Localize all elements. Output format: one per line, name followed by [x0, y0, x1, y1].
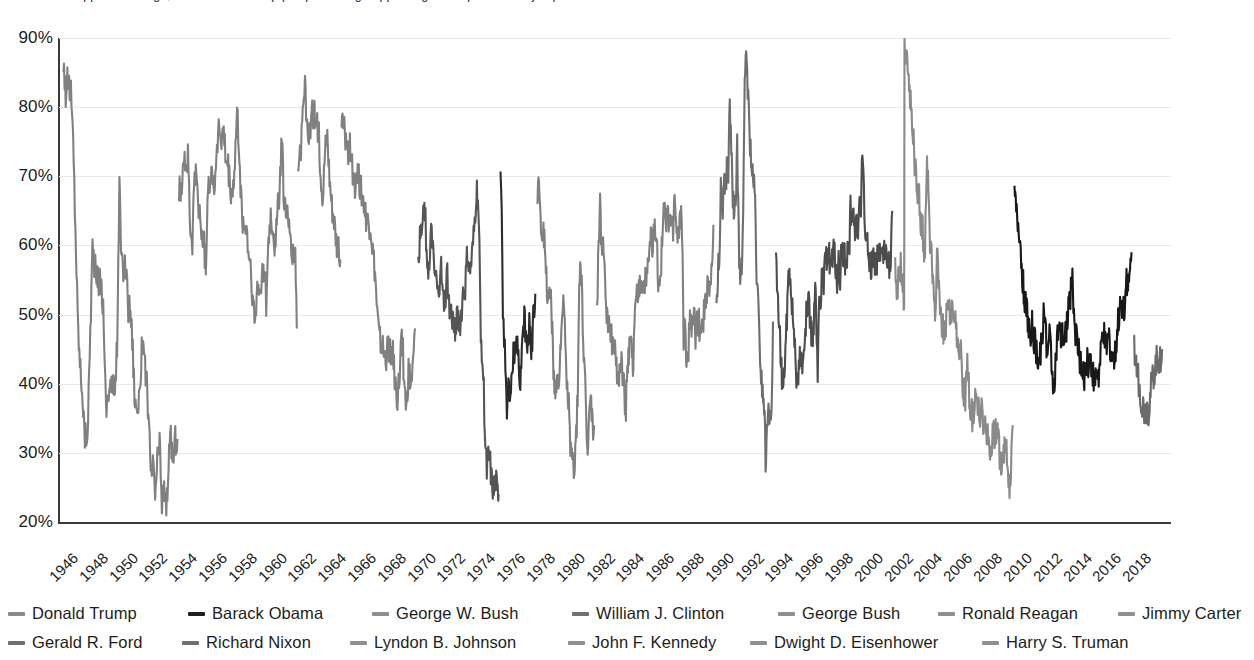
series-line [298, 76, 340, 267]
x-tick-label: 1948 [75, 549, 111, 585]
legend-swatch-icon [188, 612, 205, 616]
x-tick-label: 1978 [523, 549, 559, 585]
x-tick-label: 1950 [105, 549, 141, 585]
x-tick-label: 1992 [731, 549, 767, 585]
legend-item[interactable]: Donald Trump [8, 600, 137, 627]
legend-swatch-icon [568, 641, 585, 645]
legend-swatch-icon [938, 612, 955, 616]
series-line [597, 194, 713, 421]
y-axis-labels: 90%80%70%60%50%40%30%20% [0, 14, 56, 526]
legend-item[interactable]: John F. Kennedy [568, 629, 716, 656]
clipped-title-strip: Presidential approval ratings, 1945-2019… [0, 0, 1254, 12]
x-tick-label: 2008 [970, 549, 1006, 585]
series-line [179, 108, 297, 329]
legend-swatch-icon [572, 612, 589, 616]
x-tick-label: 1968 [374, 549, 410, 585]
x-tick-label: 1976 [493, 549, 529, 585]
x-axis-labels: 1946194819501952195419561958196019621964… [59, 536, 1179, 596]
legend-item[interactable]: Lyndon B. Johnson [350, 629, 516, 656]
legend-row-1: Donald TrumpBarack ObamaGeorge W. BushWi… [0, 600, 1254, 627]
legend-label: Dwight D. Eisenhower [774, 633, 938, 652]
legend-label: John F. Kennedy [592, 633, 716, 652]
legend-label: Barack Obama [212, 604, 323, 623]
legend-label: George Bush [802, 604, 900, 623]
legend-swatch-icon [350, 641, 367, 645]
series-line [1015, 186, 1132, 394]
x-tick-label: 2010 [1000, 549, 1036, 585]
legend-swatch-icon [1118, 612, 1135, 616]
x-tick-label: 1990 [701, 549, 737, 585]
y-tick-label: 30% [18, 443, 53, 463]
legend-label: Harry S. Truman [1006, 633, 1129, 652]
clipped-title-text: Presidential approval ratings, 1945-2019… [6, 0, 624, 2]
x-axis-line [58, 522, 1171, 524]
legend-swatch-icon [182, 641, 199, 645]
x-tick-label: 1996 [791, 549, 827, 585]
y-tick-label: 90% [18, 28, 53, 48]
legend-label: Lyndon B. Johnson [374, 633, 516, 652]
legend-swatch-icon [8, 612, 25, 616]
x-tick-label: 1960 [254, 549, 290, 585]
x-tick-label: 1998 [821, 549, 857, 585]
series-line [538, 177, 595, 478]
x-tick-label: 1966 [344, 549, 380, 585]
legend-label: Richard Nixon [206, 633, 311, 652]
legend-row-2: Gerald R. FordRichard NixonLyndon B. Joh… [0, 629, 1254, 656]
legend-label: Donald Trump [32, 604, 137, 623]
legend-item[interactable]: George W. Bush [372, 600, 518, 627]
x-tick-label: 1952 [135, 549, 171, 585]
legend-label: Jimmy Carter [1142, 604, 1241, 623]
x-tick-label: 2006 [940, 549, 976, 585]
legend-item[interactable]: George Bush [778, 600, 900, 627]
y-tick-label: 60% [18, 235, 53, 255]
y-tick-label: 20% [18, 512, 53, 532]
x-tick-label: 1988 [672, 549, 708, 585]
x-tick-label: 1946 [46, 549, 82, 585]
y-tick-label: 50% [18, 305, 53, 325]
series-line [716, 51, 773, 471]
legend-item[interactable]: Ronald Reagan [938, 600, 1078, 627]
x-tick-label: 2016 [1089, 549, 1125, 585]
y-tick-label: 70% [18, 166, 53, 186]
x-tick-label: 1974 [463, 549, 499, 585]
x-tick-label: 1986 [642, 549, 678, 585]
series-line [64, 64, 178, 516]
legend-item[interactable]: Jimmy Carter [1118, 600, 1241, 627]
x-tick-label: 1954 [165, 549, 201, 585]
series-line [1134, 336, 1162, 426]
x-tick-label: 2002 [880, 549, 916, 585]
approval-line-chart [59, 38, 1171, 522]
x-tick-label: 1984 [612, 549, 648, 585]
x-tick-label: 2000 [851, 549, 887, 585]
legend-swatch-icon [750, 641, 767, 645]
chart-page: Presidential approval ratings, 1945-2019… [0, 0, 1254, 660]
legend-item[interactable]: Richard Nixon [182, 629, 311, 656]
x-tick-label: 2018 [1119, 549, 1155, 585]
series-line [418, 181, 499, 501]
legend-label: Ronald Reagan [962, 604, 1078, 623]
x-tick-label: 1994 [761, 549, 797, 585]
series-line [342, 114, 416, 410]
x-tick-label: 2014 [1059, 549, 1095, 585]
plot-canvas [59, 38, 1171, 522]
legend-swatch-icon [778, 612, 795, 616]
series-line [895, 38, 1013, 498]
x-tick-label: 1980 [552, 549, 588, 585]
plot-area-wrapper: 90%80%70%60%50%40%30%20% [0, 14, 1254, 526]
legend-item[interactable]: Dwight D. Eisenhower [750, 629, 938, 656]
legend-item[interactable]: Barack Obama [188, 600, 323, 627]
legend-swatch-icon [372, 612, 389, 616]
legend-swatch-icon [8, 641, 25, 645]
x-tick-label: 2004 [910, 549, 946, 585]
chart-legend: Donald TrumpBarack ObamaGeorge W. BushWi… [0, 598, 1254, 660]
x-tick-label: 1972 [433, 549, 469, 585]
legend-item[interactable]: Gerald R. Ford [8, 629, 143, 656]
x-tick-label: 1970 [403, 549, 439, 585]
legend-item[interactable]: Harry S. Truman [982, 629, 1129, 656]
x-tick-label: 1956 [195, 549, 231, 585]
x-tick-label: 1962 [284, 549, 320, 585]
legend-label: George W. Bush [396, 604, 518, 623]
series-line [501, 172, 536, 419]
legend-item[interactable]: William J. Clinton [572, 600, 724, 627]
x-tick-label: 1964 [314, 549, 350, 585]
